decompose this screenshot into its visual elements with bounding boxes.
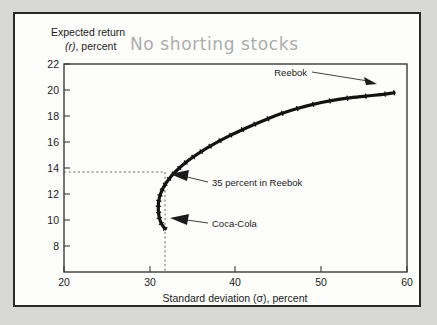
x-axis-tick-labels: 20 30 40 50 60 (58, 276, 413, 288)
y-tick-label-16: 16 (47, 136, 59, 148)
curve-data-point (347, 96, 348, 101)
annotation-coca-cola: Coca-Cola (170, 214, 258, 229)
x-axis-title: Standard deviation (σ), percent (163, 292, 308, 304)
y-tick-label-18: 18 (47, 110, 59, 122)
curve-data-point (329, 98, 330, 103)
annotation-tangency: 35 percent in Reebok (170, 170, 303, 188)
annotation-reebok-leader (312, 72, 368, 81)
figure-frame: Expected return (r), percent No shorting… (13, 12, 421, 307)
x-tick-label-30: 30 (144, 276, 156, 288)
x-tick-label-50: 50 (315, 276, 327, 288)
y-axis-symbol: (r) (65, 40, 76, 52)
expected-return-vs-standard-deviation-chart: Expected return (r), percent No shorting… (15, 14, 419, 305)
curve-data-point (156, 200, 161, 201)
x-tick-label-40: 40 (229, 276, 241, 288)
efficient-frontier-markers (156, 90, 395, 230)
y-tick-label-12: 12 (47, 188, 59, 200)
annotation-coca-cola-arrowhead (170, 214, 189, 225)
efficient-frontier-curve (158, 93, 394, 229)
annotation-tangency-leader (187, 177, 208, 182)
y-axis-unit: , percent (76, 40, 117, 52)
y-tick-label-20: 20 (47, 84, 59, 96)
annotation-reebok: Reebok (274, 67, 377, 85)
y-axis-title-line2: (r), percent (65, 40, 116, 52)
y-tick-label-8: 8 (53, 240, 59, 252)
y-axis-tick-labels: 22 20 18 16 14 12 10 8 (47, 58, 59, 252)
y-axis-ticks (64, 64, 70, 246)
curve-data-point (394, 90, 395, 95)
annotation-coca-cola-leader (187, 220, 208, 223)
annotation-tangency-label: 35 percent in Reebok (212, 177, 303, 188)
y-tick-label-22: 22 (47, 58, 59, 70)
x-axis-ticks (64, 266, 407, 272)
annotation-reebok-label: Reebok (274, 67, 307, 78)
curve-data-point (385, 92, 386, 97)
y-axis-title-line1: Expected return (51, 26, 125, 38)
y-tick-label-14: 14 (47, 162, 59, 174)
curve-data-point (313, 102, 314, 107)
y-tick-label-10: 10 (47, 214, 59, 226)
handwritten-note: No shorting stocks (130, 34, 299, 54)
curve-data-point (366, 94, 367, 99)
x-tick-label-20: 20 (58, 276, 70, 288)
annotation-reebok-arrowhead (364, 77, 377, 85)
plot-area-border (64, 64, 407, 272)
x-tick-label-60: 60 (401, 276, 413, 288)
annotation-coca-cola-label: Coca-Cola (212, 218, 258, 229)
